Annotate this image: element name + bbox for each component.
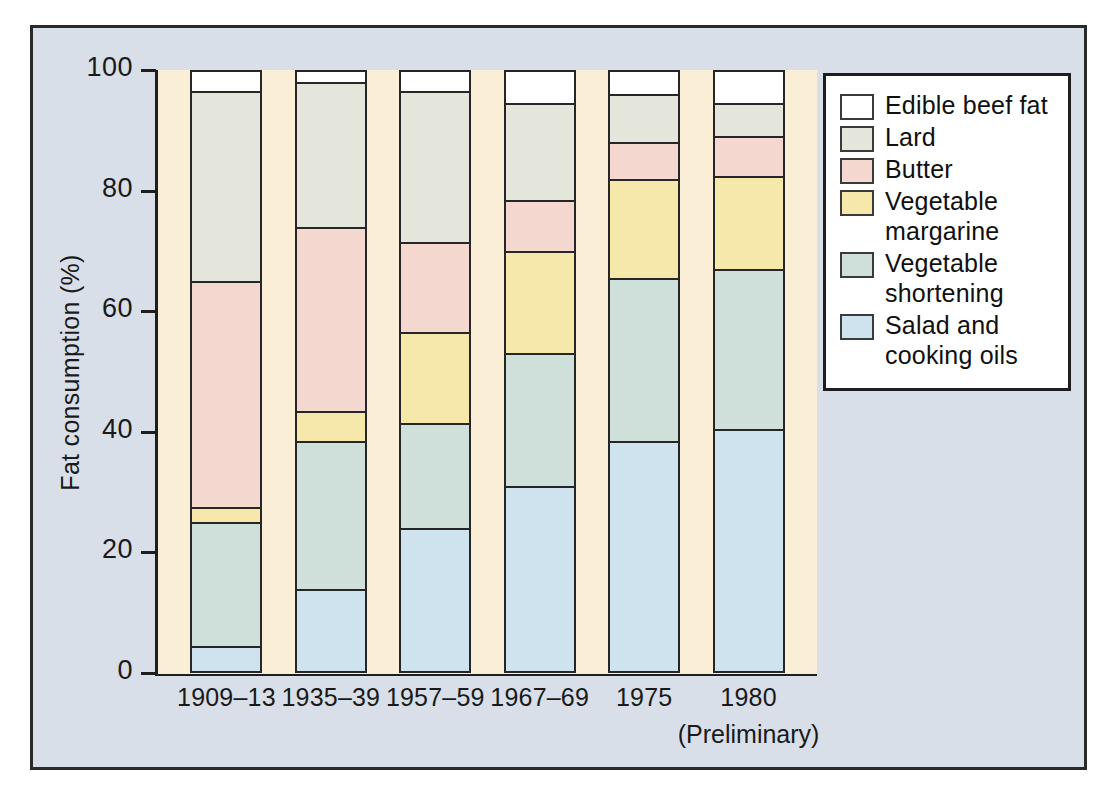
legend-item-vegetable-shortening[interactable]: Vegetableshortening xyxy=(840,248,1058,308)
chart-legend: Edible beef fatLardButterVegetablemargar… xyxy=(823,73,1071,391)
bar-1975 xyxy=(608,70,680,674)
legend-swatch-icon xyxy=(840,126,874,152)
bar-segment-butter xyxy=(399,242,471,332)
legend-swatch-icon xyxy=(840,190,874,216)
bar-segment-edible-beef-fat xyxy=(399,70,471,91)
bar-segment-lard xyxy=(608,94,680,142)
y-tick-20 xyxy=(141,551,156,554)
bar-segment-edible-beef-fat xyxy=(504,70,576,103)
bar-segment-butter xyxy=(504,200,576,251)
bar-segment-salad-and-cooking-oils xyxy=(399,528,471,673)
legend-swatch-icon xyxy=(840,94,874,120)
bar-segment-lard xyxy=(190,91,262,281)
bar-segment-lard xyxy=(713,103,785,136)
legend-label: Salad andcooking oils xyxy=(885,310,1018,370)
x-axis-sublabel-5: (Preliminary) xyxy=(659,720,839,749)
y-axis-label: Fat consumption (%) xyxy=(56,213,85,533)
y-tick-label-100: 100 xyxy=(33,52,133,83)
legend-swatch-icon xyxy=(840,252,874,278)
bar-1957-59 xyxy=(399,70,471,674)
x-axis-label-5: 1980 xyxy=(659,683,839,712)
y-tick-80 xyxy=(141,190,156,193)
legend-item-vegetable-margarine[interactable]: Vegetablemargarine xyxy=(840,186,1058,246)
bar-segment-lard xyxy=(504,103,576,199)
y-tick-label-80: 80 xyxy=(33,173,133,204)
bar-segment-butter xyxy=(190,281,262,507)
bar-segment-vegetable-shortening xyxy=(190,522,262,646)
y-tick-100 xyxy=(141,69,156,72)
bar-segment-vegetable-margarine xyxy=(190,507,262,522)
y-tick-60 xyxy=(141,310,156,313)
bar-segment-salad-and-cooking-oils xyxy=(713,429,785,673)
bar-segment-salad-and-cooking-oils xyxy=(190,646,262,673)
bar-segment-vegetable-shortening xyxy=(504,353,576,486)
bar-segment-salad-and-cooking-oils xyxy=(295,589,367,673)
y-tick-0 xyxy=(141,672,156,675)
bar-1909-13 xyxy=(190,70,262,674)
chart-panel: Fat consumption (%) 020406080100 1909–13… xyxy=(30,25,1087,770)
bar-segment-vegetable-margarine xyxy=(713,176,785,269)
legend-item-salad-and-cooking-oils[interactable]: Salad andcooking oils xyxy=(840,310,1058,370)
bar-segment-vegetable-margarine xyxy=(295,411,367,441)
bar-segment-vegetable-shortening xyxy=(713,269,785,429)
bar-1935-39 xyxy=(295,70,367,674)
bar-segment-lard xyxy=(399,91,471,242)
bar-segment-vegetable-margarine xyxy=(504,251,576,354)
bar-segment-edible-beef-fat xyxy=(295,70,367,82)
y-tick-label-20: 20 xyxy=(33,534,133,565)
legend-item-edible-beef-fat[interactable]: Edible beef fat xyxy=(840,90,1058,120)
bar-segment-butter xyxy=(713,136,785,175)
bar-segment-vegetable-shortening xyxy=(608,278,680,441)
legend-label: Vegetablemargarine xyxy=(885,186,999,246)
legend-label: Vegetableshortening xyxy=(885,248,1004,308)
y-tick-label-40: 40 xyxy=(33,414,133,445)
bar-segment-vegetable-margarine xyxy=(399,332,471,422)
bar-segment-lard xyxy=(295,82,367,227)
bar-segment-salad-and-cooking-oils xyxy=(504,486,576,673)
legend-item-butter[interactable]: Butter xyxy=(840,154,1058,184)
bar-segment-butter xyxy=(295,227,367,411)
legend-swatch-icon xyxy=(840,314,874,340)
bar-segment-salad-and-cooking-oils xyxy=(608,441,680,673)
figure-canvas: Fat consumption (%) 020406080100 1909–13… xyxy=(0,0,1108,793)
bars-container xyxy=(158,70,817,674)
y-tick-40 xyxy=(141,431,156,434)
bar-segment-edible-beef-fat xyxy=(713,70,785,103)
bar-segment-vegetable-margarine xyxy=(608,179,680,278)
bar-1967-69 xyxy=(504,70,576,674)
bar-segment-butter xyxy=(608,142,680,178)
legend-item-lard[interactable]: Lard xyxy=(840,122,1058,152)
legend-label: Lard xyxy=(885,122,936,152)
legend-swatch-icon xyxy=(840,158,874,184)
y-tick-label-60: 60 xyxy=(33,293,133,324)
bar-segment-edible-beef-fat xyxy=(190,70,262,91)
y-tick-label-0: 0 xyxy=(33,655,133,686)
legend-label: Butter xyxy=(885,154,953,184)
bar-segment-edible-beef-fat xyxy=(608,70,680,94)
legend-label: Edible beef fat xyxy=(885,90,1048,120)
bar-segment-vegetable-shortening xyxy=(399,423,471,529)
bar-1980 xyxy=(713,70,785,674)
bar-segment-vegetable-shortening xyxy=(295,441,367,589)
